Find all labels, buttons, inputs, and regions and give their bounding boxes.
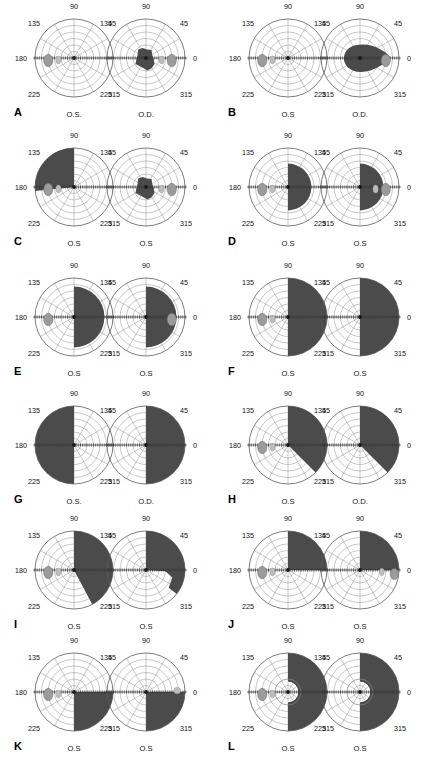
eye-label: O.S	[281, 369, 294, 378]
blind-spot-secondary	[56, 568, 61, 576]
grid-spoke	[55, 283, 75, 317]
angle-label-90: 90	[142, 636, 150, 645]
visual-field-chart-right[interactable]: 90135452253150O.D.	[94, 393, 204, 503]
visual-field-chart-right[interactable]: 90135452253150O.D.	[94, 6, 204, 116]
visual-field-chart-right[interactable]: 90135452253150O.S	[94, 135, 204, 245]
blind-spot-layer	[44, 54, 61, 66]
eye-label: O.S	[353, 622, 366, 631]
fixation-point	[72, 690, 76, 694]
eye-label: O.D.	[352, 110, 368, 119]
angle-label-45: 45	[394, 531, 402, 540]
blind-spot-layer	[258, 566, 275, 578]
angle-label-135: 135	[242, 278, 254, 287]
fixation-point	[72, 568, 76, 572]
blind-spot	[258, 566, 267, 578]
angle-label-90: 90	[142, 131, 150, 140]
grid-spoke	[55, 317, 75, 351]
angle-label-90: 90	[70, 514, 78, 523]
blind-spot	[258, 441, 267, 453]
blind-spot-secondary	[270, 568, 275, 576]
grid-spoke	[40, 673, 74, 693]
blind-spot-layer	[159, 183, 176, 195]
angle-label-90: 90	[356, 514, 364, 523]
eye-label: O.S	[67, 744, 80, 753]
angle-label-225: 225	[100, 724, 112, 733]
grid-spoke	[74, 24, 94, 58]
grid-spoke	[112, 445, 146, 465]
angle-label-90: 90	[142, 261, 150, 270]
grid-spoke	[269, 411, 289, 445]
visual-field-chart-right[interactable]: 90135452253150O.S	[94, 640, 204, 750]
eye-label: O.S	[281, 239, 294, 248]
visual-field-chart-right[interactable]: 90135452253150O.S	[308, 265, 418, 375]
angle-label-315: 315	[180, 90, 192, 99]
grid-spoke	[254, 551, 288, 571]
angle-label-90: 90	[284, 514, 292, 523]
fixation-point	[72, 315, 76, 319]
fixation-point	[144, 56, 148, 60]
visual-field-chart-right[interactable]: 90135452253150O.S	[94, 265, 204, 375]
angle-label-135: 135	[314, 531, 326, 540]
fixation-point	[286, 568, 290, 572]
angle-label-225: 225	[28, 477, 40, 486]
panel-l: L9013545180225315O.S90135452253150O.S	[218, 640, 423, 761]
angle-label-180: 180	[15, 441, 27, 450]
eye-label: O.S	[139, 622, 152, 631]
angle-label-225: 225	[314, 349, 326, 358]
visual-field-chart-right[interactable]: 90135452253150O.S	[308, 135, 418, 245]
visual-field-chart-right[interactable]: 90135452253150O.D.	[308, 6, 418, 116]
fixation-point	[286, 443, 290, 447]
scotoma-region	[146, 531, 185, 594]
angle-label-135: 135	[100, 653, 112, 662]
grid-spoke	[269, 153, 289, 187]
blind-spot-layer	[159, 54, 176, 66]
angle-label-315: 315	[180, 219, 192, 228]
angle-label-225: 225	[100, 349, 112, 358]
angle-label-225: 225	[314, 602, 326, 611]
grid-spoke	[326, 168, 360, 188]
fixation-point	[358, 56, 362, 60]
visual-field-chart-right[interactable]: 90135452253150O.S	[94, 518, 204, 628]
grid-spoke	[360, 570, 380, 604]
panel-g: G9013545180225315O.S.90135452253150O.D.	[4, 393, 214, 521]
angle-label-180: 180	[15, 566, 27, 575]
angle-label-0: 0	[193, 441, 197, 450]
angle-label-315: 315	[180, 724, 192, 733]
fixation-point	[144, 185, 148, 189]
angle-label-45: 45	[180, 148, 188, 157]
grid-spoke	[40, 39, 74, 59]
angle-label-225: 225	[242, 477, 254, 486]
angle-label-225: 225	[242, 349, 254, 358]
grid-spoke	[74, 153, 94, 187]
visual-field-chart-right[interactable]: 90135452253150O.S	[308, 518, 418, 628]
panel-letter: H	[228, 494, 236, 505]
angle-label-180: 180	[229, 54, 241, 63]
scotoma-region	[360, 406, 399, 473]
eye-label: O.S	[281, 744, 294, 753]
grid-spoke	[127, 445, 147, 479]
visual-field-chart-right[interactable]: 90135452253150O.S	[308, 640, 418, 750]
blind-spot-secondary	[56, 56, 61, 64]
angle-label-180: 180	[15, 313, 27, 322]
panel-letter: L	[228, 741, 235, 752]
grid-spoke	[112, 692, 146, 712]
angle-label-180: 180	[15, 54, 27, 63]
blind-spot	[381, 183, 390, 195]
grid-spoke	[326, 426, 360, 446]
panel-d: D9013545180225315O.S90135452253150O.S	[218, 135, 423, 263]
eye-label: O.S	[67, 369, 80, 378]
angle-label-90: 90	[356, 389, 364, 398]
angle-label-90: 90	[356, 636, 364, 645]
blind-spot-secondary	[270, 56, 275, 64]
blind-spot-secondary	[270, 315, 275, 323]
angle-label-315: 315	[394, 349, 406, 358]
panel-letter: E	[14, 366, 21, 377]
angle-label-315: 315	[394, 602, 406, 611]
eye-label: O.S.	[66, 497, 81, 506]
blind-spot	[167, 183, 176, 195]
blind-spot	[44, 313, 53, 325]
grid-spoke	[74, 445, 94, 479]
visual-field-chart-right[interactable]: 90135452253150O.D.	[308, 393, 418, 503]
angle-label-90: 90	[356, 131, 364, 140]
grid-spoke	[127, 570, 147, 604]
